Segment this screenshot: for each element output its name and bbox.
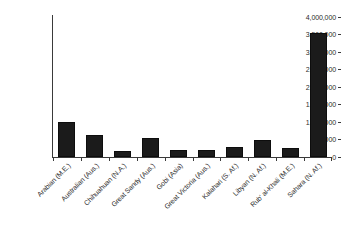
x-label-slot: Sahara (N. Af.) (304, 158, 332, 235)
bar-slot (81, 17, 109, 157)
bar-slot (276, 17, 304, 157)
plot-area (53, 17, 332, 157)
bar-slot (220, 17, 248, 157)
bar-slot (304, 17, 332, 157)
bar[interactable] (282, 148, 299, 157)
bar[interactable] (142, 138, 159, 157)
bar[interactable] (86, 135, 103, 157)
bar[interactable] (198, 150, 215, 157)
bar-slot (165, 17, 193, 157)
bar-series (53, 17, 332, 157)
bar-slot (53, 17, 81, 157)
bar-chart-figure: 4,000,0003,500,0003,000,0002,500,0002,00… (0, 0, 341, 235)
bar-slot (193, 17, 221, 157)
bar[interactable] (254, 140, 271, 157)
bar[interactable] (58, 122, 75, 157)
x-label-slot: Kalahari (S. Af.) (220, 158, 248, 235)
bar-slot (248, 17, 276, 157)
bar[interactable] (170, 150, 187, 157)
bar[interactable] (310, 33, 327, 157)
bar[interactable] (226, 147, 243, 157)
bar-slot (109, 17, 137, 157)
x-label-slot: Great Sandy (Aus.) (137, 158, 165, 235)
x-axis-category-labels: Arabian (M.E.)Australian (Aus.)Chihuahua… (53, 158, 332, 235)
bar[interactable] (114, 151, 131, 157)
bar-slot (137, 17, 165, 157)
